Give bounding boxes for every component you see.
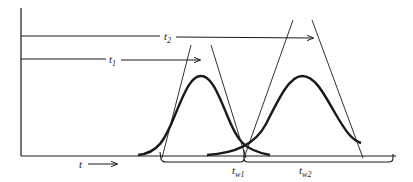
peak-2-curve bbox=[207, 76, 361, 155]
peak-2-tangents bbox=[244, 20, 363, 158]
t2-label: t2 bbox=[164, 30, 171, 45]
chromatogram-diagram: t2 t1 tw1 tw2 t bbox=[0, 0, 413, 182]
t2-arrow: t2 bbox=[21, 30, 313, 45]
time-axis-indicator: t bbox=[79, 158, 117, 170]
t1-label: t1 bbox=[109, 53, 116, 68]
peak-1-tangents bbox=[162, 45, 246, 158]
tw2-label: tw2 bbox=[299, 164, 311, 179]
tw1-label: tw1 bbox=[232, 164, 244, 179]
time-axis-label: t bbox=[79, 158, 83, 170]
t1-arrow: t1 bbox=[21, 53, 200, 68]
